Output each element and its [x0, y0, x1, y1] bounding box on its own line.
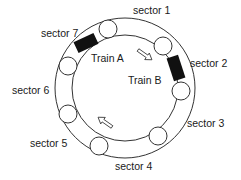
train-a-label: Train A — [91, 53, 124, 64]
boundary-circle — [90, 137, 108, 155]
sector-5-label: sector 5 — [30, 138, 67, 149]
boundary-circle — [59, 105, 77, 123]
sector-3-label: sector 3 — [187, 118, 224, 129]
boundary-circle — [172, 82, 190, 100]
boundary-circle — [99, 20, 117, 38]
boundary-circle — [59, 57, 77, 75]
sector-1-label: sector 1 — [133, 5, 170, 16]
train-b-label: Train B — [128, 75, 161, 86]
sector-4-label: sector 4 — [115, 161, 152, 172]
arrow-counter-icon — [96, 114, 115, 130]
boundary-circle — [149, 127, 167, 145]
boundary-circle — [154, 37, 172, 55]
sector-7-label: sector 7 — [41, 28, 78, 39]
sector-2-label: sector 2 — [190, 58, 227, 69]
train-b-block — [167, 55, 186, 82]
sector-6-label: sector 6 — [12, 85, 49, 96]
arrow-clockwise-icon — [136, 47, 155, 63]
